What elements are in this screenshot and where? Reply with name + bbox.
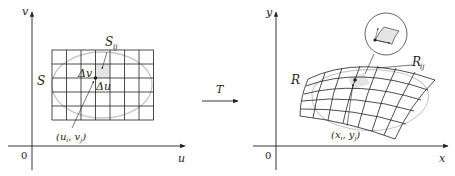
r-ij-leader-line xyxy=(378,65,412,68)
transform-label: T xyxy=(216,83,225,96)
y-axis-label: y xyxy=(265,6,273,19)
xy-curved-grid xyxy=(300,66,435,139)
u-axis-label: u xyxy=(178,152,185,165)
delta-u-label: Δu xyxy=(95,80,111,93)
point-xy-leader-line xyxy=(347,84,353,126)
right-origin-label: 0 xyxy=(265,150,271,161)
change-of-variables-diagram: v u 0 S S ij Δv Δu (ui, vj) T xyxy=(0,0,455,176)
subregion-r-ij xyxy=(348,73,370,89)
magnified-inset xyxy=(365,13,407,74)
left-panel-uv-plane: v u 0 S S ij Δv Δu (ui, vj) xyxy=(8,5,185,170)
region-r-label: R xyxy=(290,73,300,87)
left-origin-label: 0 xyxy=(21,150,27,161)
inset-point xyxy=(373,38,376,41)
delta-v-label: Δv xyxy=(77,67,93,80)
v-axis-label: v xyxy=(22,5,29,18)
point-xi-yj xyxy=(353,78,357,82)
svg-text:(ui, vj): (ui, vj) xyxy=(56,131,86,144)
point-xi-yj-label: (xi, yj) xyxy=(331,129,360,142)
right-panel-xy-plane: y x 0 R R ij (xi, yj) xyxy=(253,6,448,170)
svg-text:ij: ij xyxy=(420,63,425,71)
inset-leader-line xyxy=(365,54,374,74)
x-axis-label: x xyxy=(439,152,446,165)
svg-text:(xi, yj): (xi, yj) xyxy=(331,129,360,142)
point-leader-line xyxy=(72,81,94,128)
r-ij-label: R ij xyxy=(411,55,425,71)
svg-text:S: S xyxy=(105,35,113,49)
point-ui-vj-label: (ui, vj) xyxy=(56,131,86,144)
region-s-label: S xyxy=(37,74,45,88)
transformation-t: T xyxy=(202,83,238,101)
s-ij-label: S ij xyxy=(105,35,118,51)
